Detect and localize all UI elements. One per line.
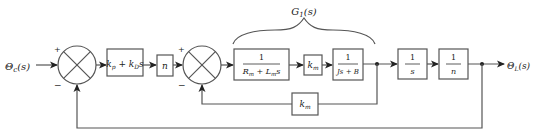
controller-block: kp + kDs	[106, 49, 144, 76]
svg-text:n: n	[451, 67, 456, 76]
svg-text:1: 1	[410, 53, 415, 62]
gear-ratio-block: n	[157, 55, 173, 76]
input-label: Θc(s)	[5, 61, 30, 74]
svg-text:n: n	[162, 61, 168, 71]
output-label: ΘL(s)	[507, 61, 531, 72]
summing-junction-2: + −	[178, 45, 221, 90]
minus-sign: −	[178, 80, 186, 90]
inverse-gear-block: 1 n	[439, 49, 468, 79]
electrical-block: 1 Rm + Lms	[234, 49, 289, 80]
minus-sign: −	[54, 80, 62, 90]
inner-feedback-return	[202, 85, 292, 104]
svg-text:1: 1	[259, 53, 264, 62]
integrator-block: 1 s	[398, 49, 427, 79]
svg-text:s: s	[410, 67, 414, 76]
svg-text:Js + B: Js + B	[335, 68, 359, 76]
summing-junction-1: + −	[54, 45, 96, 90]
svg-text:1: 1	[345, 53, 350, 62]
torque-constant-block: km	[304, 55, 322, 75]
mechanical-block: 1 Js + B	[333, 49, 363, 80]
g1-brace: G1(s)	[233, 6, 375, 44]
plus-sign: +	[178, 45, 185, 54]
block-diagram: Θc(s) + − kp + kDs n + − G1(s)	[0, 0, 538, 135]
back-emf-block: km	[292, 93, 318, 115]
svg-text:1: 1	[451, 53, 456, 62]
plus-sign: +	[54, 45, 61, 54]
